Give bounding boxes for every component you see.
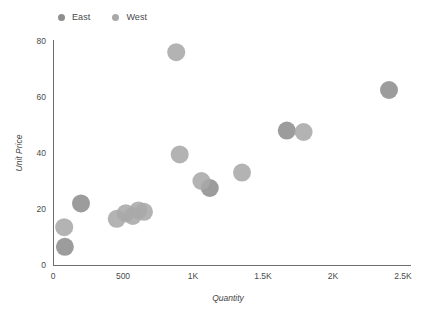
data-point-east[interactable] bbox=[72, 194, 90, 212]
data-point-west[interactable] bbox=[135, 203, 153, 221]
data-point-west[interactable] bbox=[233, 164, 251, 182]
data-point-west[interactable] bbox=[295, 123, 313, 141]
data-point-east[interactable] bbox=[56, 238, 74, 256]
data-point-west[interactable] bbox=[192, 172, 210, 190]
y-axis-tick-label: 60 bbox=[37, 92, 47, 102]
y-axis-tick-label: 20 bbox=[37, 204, 47, 214]
data-point-west[interactable] bbox=[167, 43, 185, 61]
scatter-chart: East West 020406080 05001K1.5K2K2.5K Qua… bbox=[0, 0, 427, 326]
y-axis-tick-label: 0 bbox=[41, 260, 46, 270]
x-axis-title: Quantity bbox=[212, 293, 244, 303]
x-axis-tick-label: 1.5K bbox=[254, 271, 272, 281]
y-axis: 020406080 bbox=[37, 36, 53, 270]
x-axis-tick-label: 1K bbox=[188, 271, 199, 281]
data-point-east[interactable] bbox=[380, 81, 398, 99]
x-axis-tick-label: 2K bbox=[328, 271, 339, 281]
plot-area: 020406080 05001K1.5K2K2.5K QuantityUnit … bbox=[0, 0, 427, 326]
y-axis-tick-label: 40 bbox=[37, 148, 47, 158]
y-axis-title: Unit Price bbox=[14, 134, 24, 171]
data-points-layer bbox=[55, 43, 398, 256]
y-axis-tick-label: 80 bbox=[37, 36, 47, 46]
x-axis-tick-label: 0 bbox=[51, 271, 56, 281]
x-axis-tick-label: 2.5K bbox=[394, 271, 412, 281]
data-point-east[interactable] bbox=[278, 122, 296, 140]
x-axis: 05001K1.5K2K2.5K bbox=[51, 265, 412, 281]
data-point-west[interactable] bbox=[171, 145, 189, 163]
data-point-west[interactable] bbox=[55, 218, 73, 236]
x-axis-tick-label: 500 bbox=[116, 271, 130, 281]
